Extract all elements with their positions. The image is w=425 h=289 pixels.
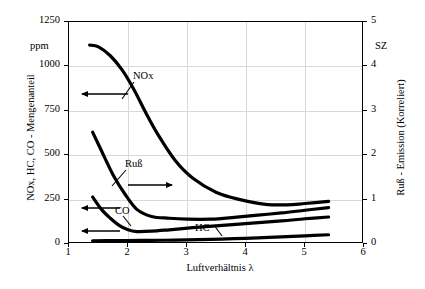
y-tick-label-right: 5 bbox=[371, 15, 411, 26]
y-tick-left bbox=[64, 110, 68, 111]
y-tick-label-right: 3 bbox=[371, 104, 411, 115]
y-tick-right bbox=[363, 110, 367, 111]
y-tick-right bbox=[363, 21, 367, 22]
series-label-russ: Ruß bbox=[125, 158, 143, 169]
y-tick-label-right: 4 bbox=[371, 59, 411, 70]
y-tick-label-left: 1250 bbox=[20, 15, 60, 26]
y-tick-label-left: 500 bbox=[20, 148, 60, 159]
y-tick-right bbox=[363, 65, 367, 66]
y-tick-right bbox=[363, 199, 367, 200]
x-tick-label: 1 bbox=[56, 247, 80, 258]
y-tick-left bbox=[64, 21, 68, 22]
x-tick-label: 2 bbox=[115, 247, 139, 258]
series-curve-nox bbox=[90, 45, 329, 205]
y-tick-label-right: 2 bbox=[371, 148, 411, 159]
x-tick-label: 5 bbox=[292, 247, 316, 258]
y-tick-left bbox=[64, 199, 68, 200]
y-tick-label-left: 750 bbox=[20, 104, 60, 115]
y-tick-label-left: 250 bbox=[20, 193, 60, 204]
y-tick-label-right: 1 bbox=[371, 193, 411, 204]
x-tick-label: 6 bbox=[351, 247, 375, 258]
y-tick-label-left: 1000 bbox=[20, 59, 60, 70]
series-label-nox: NOx bbox=[133, 70, 153, 81]
y-tick-right bbox=[363, 154, 367, 155]
y-tick-left bbox=[64, 154, 68, 155]
right-axis-unit: SZ bbox=[375, 40, 387, 51]
x-tick-label: 3 bbox=[174, 247, 198, 258]
y-tick-left bbox=[64, 65, 68, 66]
plot-area bbox=[68, 21, 363, 243]
series-label-co: CO bbox=[115, 205, 130, 216]
series-label-hc: HC bbox=[195, 222, 210, 233]
series-curve-hc bbox=[93, 235, 329, 241]
left-axis-unit: ppm bbox=[30, 40, 49, 51]
x-axis-title: Luftverhältnis λ bbox=[120, 262, 320, 273]
series-curves bbox=[69, 22, 364, 244]
y-tick-label-right: 0 bbox=[371, 237, 411, 248]
x-tick-label: 4 bbox=[233, 247, 257, 258]
y-tick-label-left: 0 bbox=[20, 237, 60, 248]
chart-root: ppm SZ NOx, HC, CO - Mengenanteil Ruß - … bbox=[0, 0, 425, 289]
